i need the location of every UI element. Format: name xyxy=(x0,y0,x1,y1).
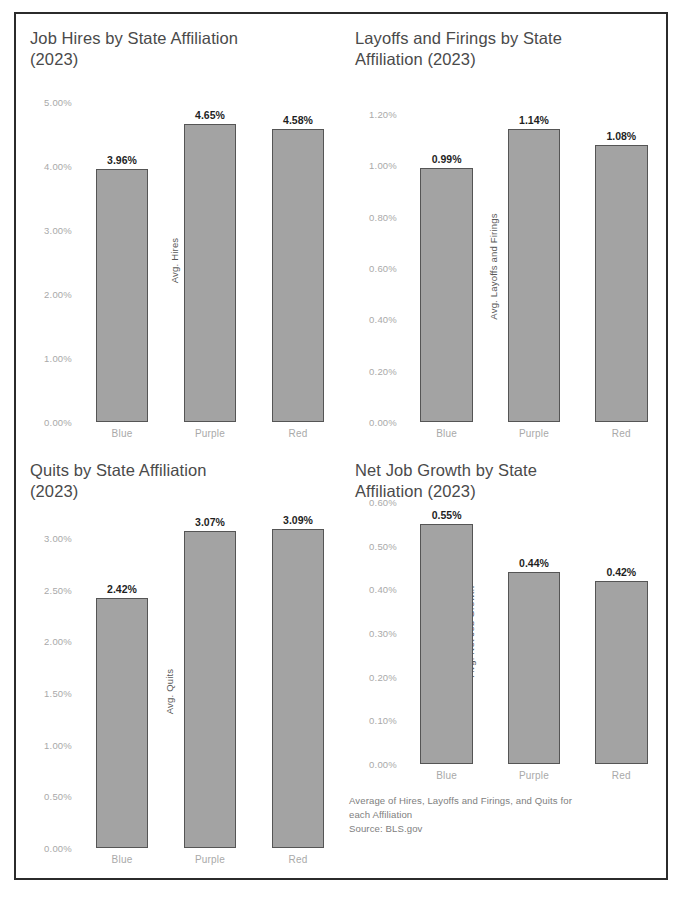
bar-value-label: 0.99% xyxy=(432,153,462,165)
y-axis-tick-label: 0.00% xyxy=(351,759,397,770)
y-axis-title: Avg. Quits xyxy=(164,537,175,847)
y-axis-tick-label: 2.50% xyxy=(26,584,72,595)
bar-group: 0.99% xyxy=(420,114,472,422)
y-axis-tick-label: 3.00% xyxy=(26,225,72,236)
bar-group: 0.42% xyxy=(595,502,647,764)
chart-panel-job-hires: Job Hires by State Affiliation (2023) 0.… xyxy=(16,14,341,446)
chart-title: Net Job Growth by State Affiliation (202… xyxy=(355,460,658,502)
chart-title: Layoffs and Firings by State Affiliation… xyxy=(355,28,658,70)
y-axis-tick-label: 0.20% xyxy=(351,365,397,376)
x-axis-category-label: Blue xyxy=(436,428,457,439)
y-axis-title: Avg. Layoffs and Firings xyxy=(488,113,499,421)
bar-group: 3.07% xyxy=(184,538,237,848)
chart-title: Quits by State Affiliation (2023) xyxy=(30,460,333,502)
bar-blue[interactable] xyxy=(96,598,149,848)
y-axis-tick-label: 0.60% xyxy=(351,497,397,508)
plot-area-net-job-growth: 0.00%0.10%0.20%0.30%0.40%0.50%0.60%Avg. … xyxy=(403,502,665,764)
bar-value-label: 1.14% xyxy=(519,114,549,126)
x-axis-category-label: Blue xyxy=(436,770,457,781)
bar-purple[interactable] xyxy=(184,124,237,422)
bar-value-label: 0.42% xyxy=(606,566,636,578)
chart-panel-net-job-growth: Net Job Growth by State Affiliation (202… xyxy=(341,446,666,878)
plot-area-layoffs-firings: 0.00%0.20%0.40%0.60%0.80%1.00%1.20%Avg. … xyxy=(403,114,665,422)
plot-area-quits: 0.00%0.50%1.00%1.50%2.00%2.50%3.00%Avg. … xyxy=(78,538,341,848)
chart-panel-quits: Quits by State Affiliation (2023) 0.00%0… xyxy=(16,446,341,878)
bar-blue[interactable] xyxy=(420,168,472,422)
y-axis-tick-label: 0.00% xyxy=(26,417,72,428)
bar-group: 1.14% xyxy=(508,114,560,422)
y-axis-tick-label: 1.50% xyxy=(26,688,72,699)
y-axis-tick-label: 0.40% xyxy=(351,584,397,595)
bar-blue[interactable] xyxy=(96,169,149,422)
x-axis-category-label: Purple xyxy=(519,428,549,439)
bar-value-label: 2.42% xyxy=(107,583,137,595)
y-axis-tick-label: 0.40% xyxy=(351,314,397,325)
y-axis-tick-label: 0.00% xyxy=(351,417,397,428)
x-axis-category-label: Purple xyxy=(195,854,225,865)
figure-footnote: Average of Hires, Layoffs and Firings, a… xyxy=(349,794,649,836)
y-axis-tick-label: 2.00% xyxy=(26,289,72,300)
y-axis-tick-label: 1.00% xyxy=(26,739,72,750)
x-axis-category-label: Blue xyxy=(112,854,133,865)
y-axis-tick-label: 0.00% xyxy=(26,843,72,854)
y-axis-tick-label: 1.20% xyxy=(351,109,397,120)
bar-value-label: 4.65% xyxy=(195,109,225,121)
bar-value-label: 3.96% xyxy=(107,154,137,166)
bar-value-label: 3.07% xyxy=(195,516,225,528)
y-axis-tick-label: 5.00% xyxy=(26,97,72,108)
bar-group: 3.96% xyxy=(96,102,149,422)
bar-red[interactable] xyxy=(595,145,647,422)
bar-value-label: 0.55% xyxy=(432,509,462,521)
x-axis-category-label: Purple xyxy=(519,770,549,781)
bar-purple[interactable] xyxy=(508,572,560,764)
plot-area-job-hires: 0.00%1.00%2.00%3.00%4.00%5.00%Avg. Hires… xyxy=(78,102,341,422)
bar-value-label: 4.58% xyxy=(283,114,313,126)
y-axis-tick-label: 0.60% xyxy=(351,263,397,274)
bar-group: 0.55% xyxy=(420,502,472,764)
y-axis-tick-label: 0.20% xyxy=(351,671,397,682)
chart-panel-layoffs-firings: Layoffs and Firings by State Affiliation… xyxy=(341,14,666,446)
y-axis-tick-label: 0.50% xyxy=(26,791,72,802)
bar-red[interactable] xyxy=(272,129,325,422)
bar-value-label: 3.09% xyxy=(283,514,313,526)
x-axis-category-label: Red xyxy=(289,854,308,865)
y-axis-tick-label: 0.80% xyxy=(351,211,397,222)
bar-group: 3.09% xyxy=(272,538,325,848)
bar-group: 0.44% xyxy=(508,502,560,764)
bar-group: 4.58% xyxy=(272,102,325,422)
bar-purple[interactable] xyxy=(508,129,560,422)
dashboard-frame: Job Hires by State Affiliation (2023) 0.… xyxy=(14,12,668,880)
x-axis-category-label: Red xyxy=(289,428,308,439)
bar-group: 4.65% xyxy=(184,102,237,422)
y-axis-tick-label: 3.00% xyxy=(26,533,72,544)
x-axis-category-label: Blue xyxy=(112,428,133,439)
bar-blue[interactable] xyxy=(420,524,472,764)
chart-title: Job Hires by State Affiliation (2023) xyxy=(30,28,333,70)
bar-value-label: 0.44% xyxy=(519,557,549,569)
y-axis-tick-label: 2.00% xyxy=(26,636,72,647)
bar-value-label: 1.08% xyxy=(606,130,636,142)
y-axis-title: Avg. Hires xyxy=(169,101,180,421)
y-axis-tick-label: 0.30% xyxy=(351,628,397,639)
bar-red[interactable] xyxy=(272,529,325,848)
bar-purple[interactable] xyxy=(184,531,237,848)
y-axis-tick-label: 1.00% xyxy=(26,353,72,364)
x-axis-category-label: Purple xyxy=(195,428,225,439)
bar-group: 1.08% xyxy=(595,114,647,422)
bar-red[interactable] xyxy=(595,581,647,764)
x-axis-category-label: Red xyxy=(612,770,631,781)
x-axis-category-label: Red xyxy=(612,428,631,439)
y-axis-tick-label: 0.50% xyxy=(351,540,397,551)
y-axis-tick-label: 4.00% xyxy=(26,161,72,172)
bar-group: 2.42% xyxy=(96,538,149,848)
y-axis-tick-label: 0.10% xyxy=(351,715,397,726)
y-axis-tick-label: 1.00% xyxy=(351,160,397,171)
